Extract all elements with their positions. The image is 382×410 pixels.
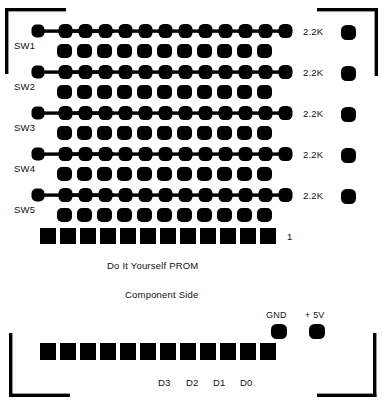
resistor-pad-2: [341, 66, 356, 81]
data-label-d3: D3: [158, 377, 171, 388]
resistor-pad-5: [341, 189, 356, 204]
resistor-label-5: 2.2K: [303, 190, 323, 201]
diagram-title: Do It Yourself PROM: [107, 260, 198, 271]
data-label-d1: D1: [213, 377, 226, 388]
resistor-pad-3: [341, 107, 356, 122]
corner-bracket-bottom-right: [317, 333, 376, 397]
corner-bracket-top-right: [317, 8, 378, 76]
pcb-layout-diagram: SW1 SW2 SW3 SW4 SW5 2.2K 2.2K 2.2K 2.2K …: [0, 0, 382, 410]
trace-row-4: [32, 147, 293, 161]
resistor-pad-column: [341, 25, 356, 204]
gnd-pad: [271, 324, 287, 339]
switch-label-sw2: SW2: [14, 81, 35, 92]
power-label-5v: + 5V: [305, 310, 325, 320]
resistor-label-3: 2.2K: [303, 108, 323, 119]
trace-row-5: [32, 188, 293, 202]
resistor-pad-4: [341, 148, 356, 163]
resistor-pad-1: [341, 25, 356, 40]
pad-row-4-offset: [57, 167, 272, 181]
bottom-dip-pad-row: [40, 343, 276, 360]
resistor-label-2: 2.2K: [303, 67, 323, 78]
pad-row-3-offset: [57, 126, 272, 140]
switch-label-sw4: SW4: [14, 163, 35, 174]
v5-pad: [309, 324, 325, 339]
resistor-label-4: 2.2K: [303, 149, 323, 160]
switch-label-sw1: SW1: [14, 40, 35, 51]
power-pad-group: [271, 324, 325, 339]
corner-bracket-bottom-left: [9, 333, 70, 397]
pad-row-2-offset: [57, 85, 272, 99]
top-dip-pad-row: [40, 228, 276, 244]
power-label-gnd: GND: [266, 310, 287, 320]
trace-row-2: [32, 65, 293, 79]
pin-1-marker: 1: [287, 231, 292, 242]
pcb-artwork: [0, 0, 382, 410]
pad-row-1-offset: [57, 44, 272, 58]
switch-label-sw3: SW3: [14, 122, 35, 133]
trace-row-1: [32, 24, 293, 38]
data-label-d0: D0: [240, 377, 253, 388]
diagram-subtitle: Component Side: [125, 289, 199, 300]
switch-label-sw5: SW5: [14, 204, 35, 215]
pad-row-5-offset: [57, 208, 272, 222]
resistor-label-1: 2.2K: [303, 26, 323, 37]
trace-row-3: [32, 106, 293, 120]
data-label-d2: D2: [186, 377, 199, 388]
